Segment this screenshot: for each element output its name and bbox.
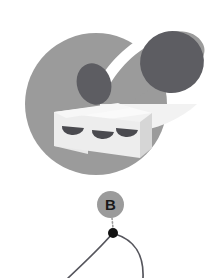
edge-left <box>68 234 112 278</box>
node-dot[interactable] <box>108 228 118 238</box>
edge-right <box>115 234 143 278</box>
node-annotation-graph <box>0 0 217 278</box>
badge-circle[interactable] <box>97 191 124 218</box>
leader-line <box>112 218 113 228</box>
illustration-canvas: B <box>0 0 217 278</box>
